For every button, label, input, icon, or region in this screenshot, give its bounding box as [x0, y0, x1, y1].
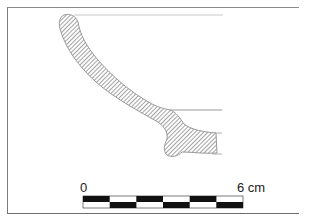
sherd-section: [59, 14, 217, 156]
scale-bar: [83, 196, 243, 208]
scale-end-label: 6 cm: [237, 181, 265, 194]
scale-start-label: 0: [80, 181, 87, 194]
